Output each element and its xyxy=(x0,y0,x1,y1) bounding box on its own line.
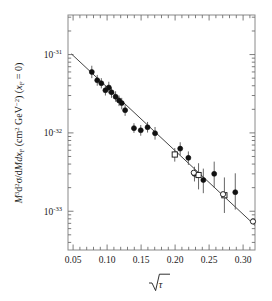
x-axis-tick-labels: 0.050.100.150.200.250.30 xyxy=(65,255,252,265)
data-point-filled-circle xyxy=(123,108,128,113)
plot-frame xyxy=(68,15,255,250)
x-tick-label: 0.20 xyxy=(167,255,184,265)
figure-container: 10-3110-3210-33 0.050.100.150.200.250.30… xyxy=(0,0,272,301)
data-point-filled-circle xyxy=(131,126,136,131)
y-tick-label: 10-32 xyxy=(44,127,62,139)
data-point-filled-circle xyxy=(109,90,114,95)
x-axis-title: τ xyxy=(149,274,170,290)
data-point-filled-circle xyxy=(99,81,104,86)
data-markers-group xyxy=(89,69,255,224)
data-point-filled-circle xyxy=(119,101,124,106)
x-tick-label: 0.25 xyxy=(201,255,218,265)
data-point-open-circle xyxy=(250,219,255,224)
scatter-plot: 10-3110-3210-33 0.050.100.150.200.250.30… xyxy=(0,0,272,301)
y-axis-title: M3d2σ/dMdxF (cm2 GeV−2) (xF = 0) xyxy=(13,63,26,205)
data-point-filled-circle xyxy=(178,146,183,151)
x-axis-title-symbol: τ xyxy=(159,279,163,290)
y-axis-tick-labels: 10-3110-3210-33 xyxy=(44,48,63,216)
x-tick-label: 0.10 xyxy=(99,255,116,265)
data-point-filled-circle xyxy=(153,131,158,136)
y-axis-ticks xyxy=(68,17,255,242)
y-tick-label: 10-33 xyxy=(44,205,63,217)
x-tick-label: 0.15 xyxy=(133,255,150,265)
y-tick-label: 10-31 xyxy=(44,48,62,60)
data-point-open-square xyxy=(172,152,177,157)
data-point-filled-circle xyxy=(186,155,191,160)
x-tick-label: 0.05 xyxy=(65,255,82,265)
data-point-open-circle xyxy=(220,192,225,197)
data-point-filled-circle xyxy=(89,69,94,74)
data-point-filled-circle xyxy=(145,125,150,130)
x-tick-label: 0.30 xyxy=(235,255,252,265)
data-point-open-circle xyxy=(191,170,196,175)
data-point-filled-circle xyxy=(201,178,206,183)
data-point-filled-circle xyxy=(212,171,217,176)
data-point-filled-circle xyxy=(106,85,111,90)
data-point-filled-circle xyxy=(138,128,143,133)
x-axis-ticks xyxy=(73,15,250,250)
data-point-filled-circle xyxy=(233,190,238,195)
